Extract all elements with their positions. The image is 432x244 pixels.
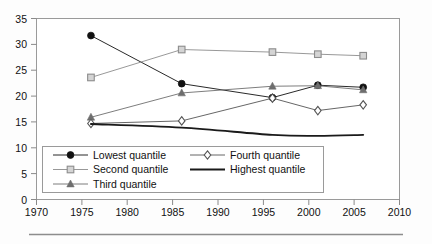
y-tick-label: 35 [15, 13, 27, 25]
y-tick-label: 5 [21, 168, 27, 180]
x-tick-label: 1980 [116, 206, 140, 218]
x-tick-label: 2010 [388, 206, 412, 218]
x-tick-label: 1975 [70, 206, 94, 218]
x-tick-label: 1970 [25, 206, 49, 218]
chart-legend: Lowest quantile Second quantile Third qu… [43, 147, 324, 193]
data-point-marker [178, 46, 185, 53]
x-tick-label: 2005 [342, 206, 366, 218]
x-axis-ticks [37, 200, 400, 206]
y-tick-label: 10 [15, 142, 27, 154]
data-point-marker [315, 51, 322, 58]
y-axis-labels: 35 30 25 20 15 10 5 0 [15, 13, 27, 206]
data-point-marker [360, 52, 367, 59]
data-point-marker [88, 74, 95, 81]
x-tick-label: 2000 [297, 206, 321, 218]
legend-label-third: Third quantile [93, 178, 157, 190]
data-point-marker [178, 80, 185, 87]
x-tick-label: 1995 [252, 206, 276, 218]
legend-sample-marker [67, 166, 74, 173]
y-tick-label: 30 [15, 38, 27, 50]
legend-label-fourth: Fourth quantile [230, 149, 300, 161]
legend-label-highest: Highest quantile [230, 163, 305, 175]
y-axis-ticks [31, 19, 37, 200]
legend-label-second: Second quantile [93, 163, 168, 175]
x-tick-label: 1990 [206, 206, 230, 218]
data-point-marker [269, 49, 276, 56]
chart-canvas: 35 30 25 20 15 10 5 0 1970 1975 1980 19 [0, 0, 432, 244]
chart-figure: 35 30 25 20 15 10 5 0 1970 1975 1980 19 [0, 0, 432, 244]
y-tick-label: 15 [15, 116, 27, 128]
y-tick-label: 0 [21, 194, 27, 206]
data-point-marker [88, 32, 95, 39]
x-tick-label: 1985 [161, 206, 185, 218]
legend-sample-marker [67, 152, 74, 159]
y-tick-label: 20 [15, 90, 27, 102]
legend-label-lowest: Lowest quantile [93, 149, 166, 161]
y-tick-label: 25 [15, 64, 27, 76]
x-axis-labels: 1970 1975 1980 1985 1990 1995 2000 2005 … [25, 206, 412, 218]
